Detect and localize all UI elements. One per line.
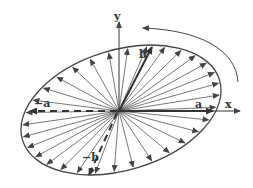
vector-neg-b <box>89 113 117 175</box>
a-label: a <box>195 98 202 111</box>
b-label: b <box>139 48 147 61</box>
neg-b-label: −b <box>82 151 99 164</box>
x-axis-label: x <box>225 98 232 111</box>
y-axis-label: y <box>113 10 121 23</box>
neg-a-label: −a <box>34 97 50 110</box>
ellipse-vector-diagram: y x a −a b −b <box>0 0 253 188</box>
vector-b <box>119 47 152 111</box>
